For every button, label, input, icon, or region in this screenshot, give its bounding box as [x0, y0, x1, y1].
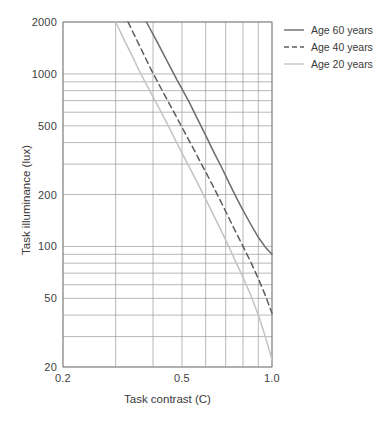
- x-tick-label: 1.0: [264, 372, 280, 384]
- legend-item-age-40: Age 40 years: [283, 39, 389, 55]
- x-tick-label: 0.5: [174, 372, 190, 384]
- legend-item-age-60: Age 60 years: [283, 22, 389, 38]
- legend-label-age-60: Age 60 years: [311, 24, 373, 36]
- y-tick-label: 20: [0, 361, 57, 373]
- legend-swatch-solid: [283, 24, 305, 36]
- legend-label-age-40: Age 40 years: [311, 41, 373, 53]
- y-tick-label: 50: [0, 292, 57, 304]
- legend-swatch-light: [283, 58, 305, 70]
- y-axis-title: Task illuminance (lux): [20, 120, 32, 280]
- legend-item-age-20: Age 20 years: [283, 56, 389, 72]
- chart-figure: 200010005002001005020 0.20.51.0 Task ill…: [0, 0, 389, 422]
- y-tick-label: 1000: [0, 68, 57, 80]
- y-tick-label: 2000: [0, 16, 57, 28]
- series-lines: [116, 22, 272, 360]
- x-axis-title: Task contrast (C): [63, 393, 272, 405]
- y-gridlines: [63, 22, 272, 367]
- legend-swatch-dashed: [283, 41, 305, 53]
- chart-legend: Age 60 years Age 40 years Age 20 years: [283, 22, 389, 73]
- x-tick-label: 0.2: [55, 372, 71, 384]
- legend-label-age-20: Age 20 years: [311, 58, 373, 70]
